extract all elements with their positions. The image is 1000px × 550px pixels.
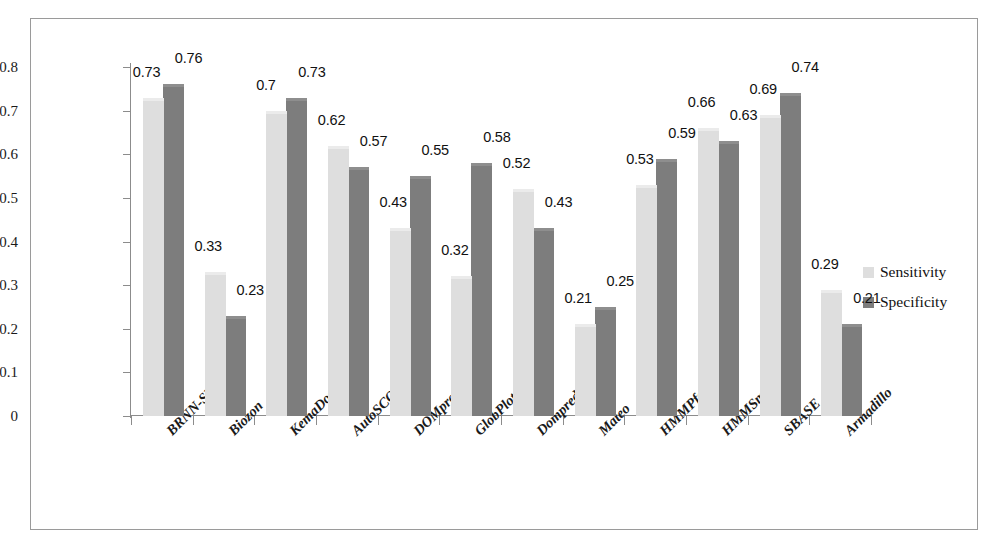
bar-specificity: 0.73 xyxy=(286,98,307,416)
bar-sensitivity: 0.52 xyxy=(513,189,534,416)
bar-group: 0.530.59 xyxy=(636,67,678,416)
bar-value-label: 0.73 xyxy=(298,64,325,80)
bar-value-label: 0.57 xyxy=(360,133,387,149)
bar-body xyxy=(266,114,287,416)
bar-group: 0.70.73 xyxy=(266,67,308,416)
y-axis-tick xyxy=(123,67,131,68)
bar-sensitivity: 0.32 xyxy=(451,276,472,416)
bar-body xyxy=(471,166,492,416)
bar-body xyxy=(780,96,801,416)
bar-specificity: 0.76 xyxy=(163,84,184,416)
bar-group: 0.210.25 xyxy=(575,67,617,416)
bar-sensitivity: 0.7 xyxy=(266,111,287,416)
bar-value-label: 0.63 xyxy=(730,107,757,123)
bar-value-label: 0.59 xyxy=(668,125,695,141)
bar-body xyxy=(533,231,554,416)
bar-sensitivity: 0.43 xyxy=(390,228,411,416)
y-axis-tick-label: 0.2 xyxy=(0,320,18,337)
bar-body xyxy=(348,170,369,416)
bar-value-label: 0.43 xyxy=(545,194,572,210)
bar-group: 0.430.55 xyxy=(390,67,432,416)
y-axis-tick-label: 0.5 xyxy=(0,189,18,206)
y-axis-tick-label: 0.6 xyxy=(0,146,18,163)
bar-body xyxy=(410,179,431,416)
y-axis-tick xyxy=(123,111,131,112)
bar-body xyxy=(143,101,164,416)
bar-specificity: 0.58 xyxy=(471,163,492,416)
bar-specificity: 0.74 xyxy=(780,93,801,416)
y-axis-tick-label: 0.4 xyxy=(0,233,18,250)
y-axis-tick-label: 0 xyxy=(11,408,19,425)
bar-body xyxy=(595,310,616,416)
bar-value-label: 0.69 xyxy=(750,81,777,97)
plot-area: 0.730.760.330.230.70.730.620.570.430.550… xyxy=(131,67,871,416)
bar-specificity: 0.43 xyxy=(533,228,554,416)
bar-value-label: 0.62 xyxy=(318,112,345,128)
bar-body xyxy=(513,192,534,416)
bar-group: 0.520.43 xyxy=(513,67,555,416)
bar-body xyxy=(451,279,472,416)
bar-group: 0.330.23 xyxy=(205,67,247,416)
chart-legend: SensitivitySpecificity xyxy=(863,257,947,317)
bar-body xyxy=(760,118,781,416)
y-axis-tick xyxy=(123,154,131,155)
bar-body xyxy=(821,293,842,417)
bar-value-label: 0.29 xyxy=(811,256,838,272)
bar-value-label: 0.25 xyxy=(607,273,634,289)
bar-specificity: 0.25 xyxy=(595,307,616,416)
bar-group: 0.620.57 xyxy=(328,67,370,416)
bar-value-label: 0.73 xyxy=(133,64,160,80)
bar-value-label: 0.7 xyxy=(256,77,276,93)
bar-body xyxy=(718,144,739,416)
y-axis-tick-label: 0.3 xyxy=(0,277,18,294)
bar-sensitivity: 0.62 xyxy=(328,146,349,416)
bar-body xyxy=(390,231,411,416)
y-axis-tick xyxy=(123,416,131,417)
bar-sensitivity: 0.69 xyxy=(760,115,781,416)
legend-item-label: Specificity xyxy=(880,293,947,311)
bar-body xyxy=(841,327,862,416)
bar-sensitivity: 0.21 xyxy=(575,324,596,416)
y-axis-tick xyxy=(123,329,131,330)
bar-value-label: 0.21 xyxy=(565,290,592,306)
bar-specificity: 0.55 xyxy=(410,176,431,416)
bar-value-label: 0.32 xyxy=(441,242,468,258)
bar-body xyxy=(656,162,677,416)
y-axis-tick-label: 0.1 xyxy=(0,364,18,381)
y-axis-tick-label: 0.8 xyxy=(0,59,18,76)
x-axis-tick xyxy=(131,416,132,425)
bar-body xyxy=(205,275,226,416)
bar-value-label: 0.55 xyxy=(422,142,449,158)
legend-swatch-icon xyxy=(863,267,874,278)
bar-group: 0.690.74 xyxy=(760,67,802,416)
bar-group: 0.730.76 xyxy=(143,67,185,416)
bar-value-label: 0.23 xyxy=(237,282,264,298)
bar-body xyxy=(286,101,307,416)
bar-body xyxy=(636,188,657,416)
bar-group: 0.290.21 xyxy=(821,67,863,416)
legend-item[interactable]: Sensitivity xyxy=(863,257,947,287)
bar-value-label: 0.43 xyxy=(380,194,407,210)
bar-body xyxy=(225,319,246,416)
bar-specificity: 0.21 xyxy=(841,324,862,416)
chart-figure-frame: 00.10.20.30.40.50.60.70.8 0.730.760.330.… xyxy=(30,18,978,530)
bar-value-label: 0.58 xyxy=(483,129,510,145)
y-axis-tick-label: 0.7 xyxy=(0,102,18,119)
bar-group: 0.660.63 xyxy=(698,67,740,416)
bar-specificity: 0.23 xyxy=(225,316,246,416)
bar-group: 0.320.58 xyxy=(451,67,493,416)
bar-value-label: 0.21 xyxy=(853,290,880,306)
y-axis-tick xyxy=(123,242,131,243)
bar-specificity: 0.59 xyxy=(656,159,677,416)
bar-sensitivity: 0.29 xyxy=(821,290,842,417)
bar-value-label: 0.52 xyxy=(503,155,530,171)
bar-value-label: 0.74 xyxy=(792,59,819,75)
bar-sensitivity: 0.73 xyxy=(143,98,164,416)
bar-sensitivity: 0.33 xyxy=(205,272,226,416)
bar-specificity: 0.63 xyxy=(718,141,739,416)
bar-value-label: 0.66 xyxy=(688,94,715,110)
bar-body xyxy=(163,87,184,416)
bar-sensitivity: 0.53 xyxy=(636,185,657,416)
bar-body xyxy=(575,327,596,416)
y-axis-tick xyxy=(123,372,131,373)
